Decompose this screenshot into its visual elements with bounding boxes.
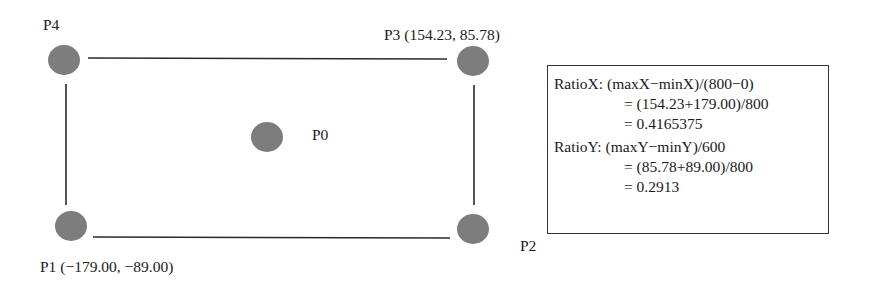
ratio-y-substitution: = (85.78+89.00)/800 xyxy=(554,157,828,177)
label-p0: P0 xyxy=(312,127,328,143)
label-p4: P4 xyxy=(43,17,59,33)
ratio-x-substitution: = (154.23+179.00)/800 xyxy=(554,94,828,114)
label-p2: P2 xyxy=(520,238,536,254)
ratio-y-label: RatioY: xyxy=(554,137,602,157)
point-p3 xyxy=(457,46,489,76)
ratio-y-row: RatioY: (maxY−minY)/600 xyxy=(554,137,828,157)
label-p1: P1 (−179.00, −89.00) xyxy=(40,259,173,275)
edge-p4-p3 xyxy=(88,58,447,59)
ratio-y-result: = 0.2913 xyxy=(554,177,828,197)
point-p0 xyxy=(251,122,283,152)
ratio-x-row: RatioX: (maxX−minX)/(800−0) xyxy=(554,74,828,94)
point-p1 xyxy=(55,211,87,241)
ratio-formula-box: RatioX: (maxX−minX)/(800−0) = (154.23+17… xyxy=(547,65,829,234)
ratio-x-label: RatioX: xyxy=(554,74,603,94)
ratio-y-expression: (maxY−minY)/600 xyxy=(606,138,726,155)
label-p3: P3 (154.23, 85.78) xyxy=(384,27,500,43)
ratio-x-expression: (maxX−minX)/(800−0) xyxy=(607,75,754,92)
point-p4 xyxy=(48,45,80,75)
ratio-x-result: = 0.4165375 xyxy=(554,114,828,134)
point-p2 xyxy=(457,214,489,244)
edge-p1-p2 xyxy=(93,237,450,238)
